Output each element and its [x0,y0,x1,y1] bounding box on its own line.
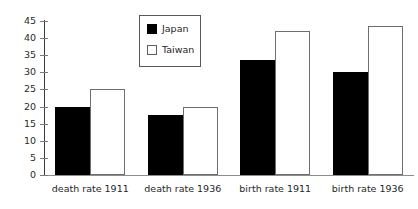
y-axis-tick-label: 10 [14,136,36,146]
y-axis-tick-label: 0 [14,170,36,180]
legend-item-japan: Japan [147,24,189,34]
x-axis-label-birth-rate-1911: birth rate 1911 [229,183,322,194]
bar-japan-birth-rate-1936 [333,72,368,175]
bar-taiwan-death-rate-1911 [90,89,125,175]
bar-taiwan-birth-rate-1911 [275,31,310,175]
y-axis-tick-label: 25 [14,84,36,94]
legend-swatch-open-white-square-icon [147,45,157,55]
legend-swatch-filled-black-square-icon [147,24,157,34]
x-axis-label-death-rate-1936: death rate 1936 [137,183,230,194]
y-axis-tick-label: 5 [14,153,36,163]
legend-label-taiwan: Taiwan [162,45,194,55]
bar-taiwan-death-rate-1936 [183,107,218,175]
legend-label-japan: Japan [162,24,189,34]
bar-taiwan-birth-rate-1936 [368,26,403,175]
bar-japan-death-rate-1936 [148,115,183,175]
legend-item-taiwan: Taiwan [147,45,194,55]
chart-legend: Japan Taiwan [139,15,201,67]
y-axis-tick-label: 35 [14,50,36,60]
x-axis-label-death-rate-1911: death rate 1911 [44,183,137,194]
y-axis-tick-label: 15 [14,119,36,129]
x-axis-label-birth-rate-1936: birth rate 1936 [322,183,415,194]
y-axis-tick-label: 30 [14,67,36,77]
x-axis-line [44,175,414,176]
bar-japan-birth-rate-1911 [240,60,275,175]
y-axis-tick [40,175,48,176]
plot-area [44,21,414,175]
bar-japan-death-rate-1911 [55,107,90,175]
bar-chart: 051015202530354045 death rate 1911death … [0,0,418,209]
y-axis-tick-label: 40 [14,33,36,43]
y-axis-tick-label: 20 [14,102,36,112]
y-axis-tick-label: 45 [14,16,36,26]
